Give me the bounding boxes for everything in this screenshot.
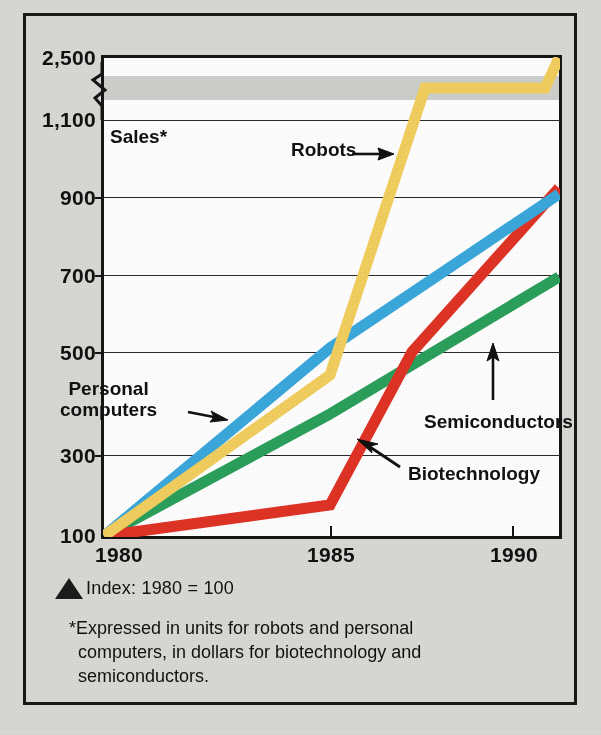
gridline-1100 bbox=[103, 120, 560, 121]
y-stub-500 bbox=[95, 352, 104, 354]
x-tick-1980: 1980 bbox=[95, 543, 143, 567]
plot-border-top bbox=[101, 55, 562, 58]
x-stub-1990 bbox=[512, 526, 514, 537]
plot-border-right bbox=[559, 55, 562, 539]
series-label-personal-computers-line1: Personal bbox=[68, 378, 148, 399]
gridline-300 bbox=[103, 455, 560, 456]
axis-title-sales: Sales* bbox=[110, 126, 167, 148]
y-stub-300 bbox=[95, 455, 104, 457]
x-stub-1985 bbox=[330, 526, 332, 537]
gridline-500 bbox=[103, 352, 560, 353]
x-tick-1985: 1985 bbox=[307, 543, 355, 567]
series-label-personal-computers: Personal computers bbox=[60, 378, 157, 421]
gridline-700 bbox=[103, 275, 560, 276]
x-tick-1990: 1990 bbox=[490, 543, 538, 567]
series-label-personal-computers-line2: computers bbox=[60, 399, 157, 420]
y-tick-700: 700 bbox=[0, 264, 96, 288]
y-stub-900 bbox=[95, 197, 104, 199]
y-tick-2500: 2,500 bbox=[0, 46, 96, 70]
footnote: *Expressed in units for robots and perso… bbox=[78, 617, 498, 688]
y-stub-700 bbox=[95, 275, 104, 277]
plot-border-left bbox=[101, 55, 104, 539]
series-label-biotechnology: Biotechnology bbox=[408, 463, 540, 485]
gridline-900 bbox=[103, 197, 560, 198]
index-note: Index: 1980 = 100 bbox=[86, 578, 234, 599]
y-tick-100: 100 bbox=[0, 524, 96, 548]
series-label-robots: Robots bbox=[291, 139, 356, 161]
y-tick-900: 900 bbox=[0, 186, 96, 210]
triangle-bullet-icon bbox=[55, 578, 83, 599]
y-tick-1100: 1,100 bbox=[0, 108, 96, 132]
y-tick-500: 500 bbox=[0, 341, 96, 365]
axis-break-band bbox=[103, 76, 560, 100]
series-label-semiconductors: Semiconductors bbox=[424, 411, 573, 433]
y-tick-300: 300 bbox=[0, 444, 96, 468]
